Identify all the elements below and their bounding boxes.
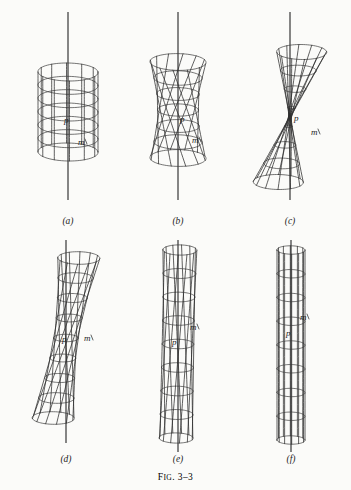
caption-suffix: . 3–3 (172, 472, 193, 482)
panel-b-label-m: m (192, 135, 199, 145)
panel-b-label-p: p (179, 114, 185, 124)
figure-3-3: pm(a)pm(b)pm(c)pm(d)pm(e)pm(f) FIG. 3–3 (0, 0, 351, 490)
panel-d-m-leader (91, 335, 93, 340)
panel-d-label-m: m (84, 333, 91, 343)
panel-d-ring (58, 273, 94, 284)
panel-e-label-p: p (171, 337, 177, 347)
panel-c-generator (266, 45, 312, 188)
panel-d-ring (58, 252, 100, 265)
panel-f-label-p: p (285, 328, 291, 338)
panel-a-label-p: p (63, 115, 69, 125)
panel-c-ring (277, 45, 327, 60)
panel-e-generator (163, 255, 178, 441)
panel-a-label-m: m (78, 137, 85, 147)
panel-f-label-m: m (300, 312, 307, 322)
panel-e-label-m: m (190, 322, 197, 332)
panel-c-label-p: p (293, 113, 299, 123)
panel-f-label: (f) (287, 454, 296, 465)
panel-b-generator (157, 56, 159, 164)
panel-a-m-leader (85, 139, 87, 144)
panel-c-generator (257, 55, 325, 178)
panel-e-label: (e) (173, 454, 184, 465)
panel-c-m-leader (318, 129, 320, 134)
caption-smallcaps: IG (163, 473, 172, 482)
panel-e-ring (161, 386, 193, 396)
panel-e-ring (163, 269, 196, 279)
caption-text: FIG. 3–3 (158, 472, 194, 482)
figure-artwork: pm(a)pm(b)pm(c)pm(d)pm(e)pm(f) (0, 0, 351, 490)
panel-d-ring (56, 314, 82, 322)
panel-c-label-m: m (311, 127, 318, 137)
panel-d-label-p: p (61, 334, 67, 344)
panel-a-label: (a) (62, 216, 73, 227)
panel-d-label: (d) (60, 454, 71, 465)
figure-caption: FIG. 3–3 (0, 466, 351, 484)
panel-c-label: (c) (285, 216, 296, 227)
panel-b-label: (b) (172, 216, 183, 227)
panel-f-m-leader (307, 314, 309, 319)
panel-e-ring (163, 245, 197, 255)
panel-e-m-leader (197, 324, 199, 329)
